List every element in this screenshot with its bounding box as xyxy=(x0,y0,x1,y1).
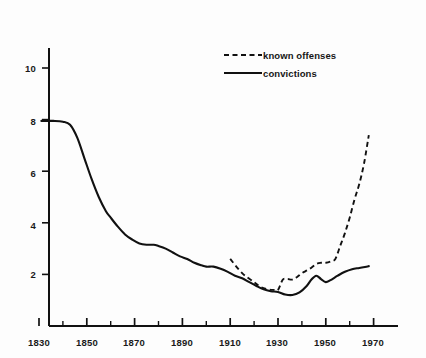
chart-plot-area xyxy=(0,0,426,358)
x-tick-label-1850: 1850 xyxy=(76,337,98,348)
y-tick-label-2: 2 xyxy=(16,269,36,280)
y-tick-label-10: 10 xyxy=(16,63,36,74)
x-tick-label-1870: 1870 xyxy=(123,337,145,348)
x-tick-label-1950: 1950 xyxy=(314,337,336,348)
legend-label-convictions: convictions xyxy=(263,68,317,79)
y-tick-label-6: 6 xyxy=(16,168,36,179)
x-tick-label-1910: 1910 xyxy=(219,337,241,348)
y-tick-label-8: 8 xyxy=(16,116,36,127)
y-tick-label-4: 4 xyxy=(16,220,36,231)
x-tick-label-1930: 1930 xyxy=(266,337,288,348)
x-tick-label-1830: 1830 xyxy=(28,337,50,348)
x-axis-ticks xyxy=(39,318,374,326)
chart-figure: 10 8 6 4 2 1830 1850 1870 1890 1910 1930… xyxy=(0,0,426,358)
legend-label-known-offenses: known offenses xyxy=(263,50,336,61)
x-tick-label-1970: 1970 xyxy=(362,337,384,348)
series-line-convictions xyxy=(41,121,368,295)
y-axis-ticks xyxy=(42,68,49,274)
series-line-known-offenses xyxy=(230,135,369,291)
x-tick-label-1890: 1890 xyxy=(171,337,193,348)
